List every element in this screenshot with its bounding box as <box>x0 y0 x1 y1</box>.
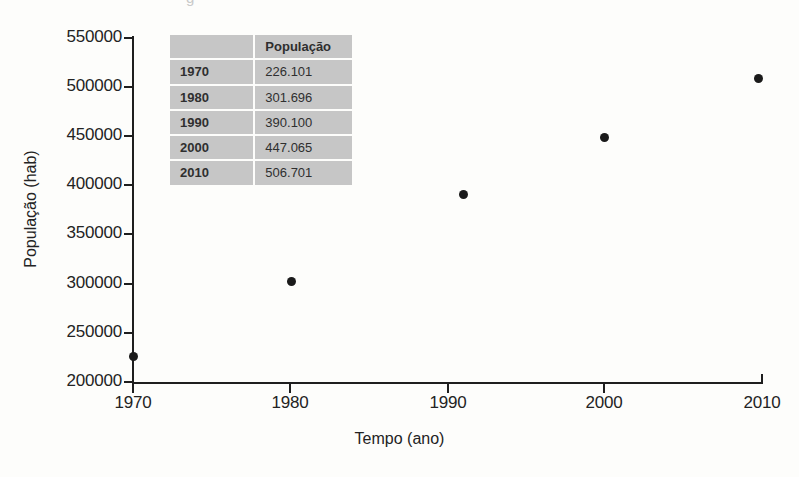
y-axis-tick-label: 250000 <box>12 322 122 342</box>
table-header-row: População <box>170 35 352 58</box>
scatter-chart-figure: g 55000050000045000040000035000030000025… <box>0 0 799 477</box>
x-axis-tick-label: 1990 <box>403 393 493 413</box>
table-cell-year: 1970 <box>170 60 253 83</box>
table-cell-population: 226.101 <box>255 60 352 83</box>
data-point <box>287 277 296 286</box>
table-cell-population: 506.701 <box>255 161 352 184</box>
table-cell-population: 447.065 <box>255 136 352 159</box>
table-row: 1970226.101 <box>170 60 352 83</box>
y-axis-tick-label: 550000 <box>12 27 122 47</box>
data-point <box>459 190 468 199</box>
table-cell-year: 2010 <box>170 161 253 184</box>
y-axis-tick-label: 500000 <box>12 76 122 96</box>
table-cell-year: 1990 <box>170 111 253 134</box>
table-cell-population: 390.100 <box>255 111 352 134</box>
x-axis-title: Tempo (ano) <box>0 430 799 448</box>
x-axis-tick <box>761 374 763 383</box>
y-axis-tick <box>124 37 133 39</box>
x-axis-tick-label: 1980 <box>245 393 335 413</box>
x-axis-tick <box>289 384 291 393</box>
y-axis-tick <box>124 233 133 235</box>
y-axis-tick <box>124 135 133 137</box>
table-cell-population: 301.696 <box>255 86 352 109</box>
y-axis-tick-label: 200000 <box>12 371 122 391</box>
data-point <box>129 352 138 361</box>
table-row: 2010506.701 <box>170 161 352 184</box>
x-axis-tick <box>603 384 605 393</box>
y-axis-title: População (hab) <box>22 114 40 304</box>
table-row: 2000447.065 <box>170 136 352 159</box>
y-axis-tick <box>124 283 133 285</box>
x-axis-tick-label: 1970 <box>88 393 178 413</box>
x-axis-tick <box>447 384 449 393</box>
cropped-title-remnant: g <box>186 0 195 6</box>
y-axis-tick <box>124 332 133 334</box>
y-axis-tick <box>124 381 133 383</box>
population-data-table: População 1970226.1011980301.6961990390.… <box>168 33 354 187</box>
table-header-population: População <box>255 35 352 58</box>
y-axis-tick <box>124 184 133 186</box>
table-row: 1990390.100 <box>170 111 352 134</box>
table-body: 1970226.1011980301.6961990390.1002000447… <box>170 60 352 184</box>
y-axis-tick <box>124 86 133 88</box>
x-axis-tick <box>132 384 134 393</box>
x-axis-tick-label: 2010 <box>717 393 799 413</box>
table-cell-year: 2000 <box>170 136 253 159</box>
data-point <box>754 74 763 83</box>
data-point <box>600 133 609 142</box>
table-row: 1980301.696 <box>170 86 352 109</box>
x-axis-tick-label: 2000 <box>559 393 649 413</box>
table-cell-year: 1980 <box>170 86 253 109</box>
table-header-year <box>170 35 253 58</box>
